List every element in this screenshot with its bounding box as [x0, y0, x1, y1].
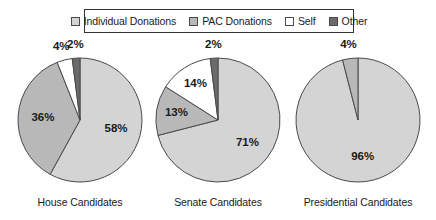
pie-chart-house: 58%36%4%2% House Candidates [14, 44, 146, 220]
pie-caption-senate: Senate Candidates [174, 196, 262, 208]
legend-swatch-icon-pac [189, 17, 198, 26]
pie-chart-senate: 71%13%14%2% Senate Candidates [152, 44, 284, 220]
legend-swatch-icon-other [329, 17, 338, 26]
legend-label-pac: PAC Donations [202, 16, 272, 27]
slice-label-pac-donations: 4% [340, 38, 357, 50]
legend-label-self: Self [298, 16, 316, 27]
pie-chart-presidential: 96%4% Presidential Candidates [292, 44, 424, 220]
chart-legend: Individual Donations PAC Donations Self … [84, 9, 354, 33]
legend-item-other: Other [329, 16, 368, 27]
pie-chart-figure: Individual Donations PAC Donations Self … [0, 0, 436, 220]
pie-caption-presidential: Presidential Candidates [304, 196, 413, 208]
pie-svg-presidential: 96%4% [292, 44, 424, 196]
legend-item-pac-donations: PAC Donations [189, 16, 272, 27]
legend-item-self: Self [285, 16, 316, 27]
slice-label-individual-donations: 96% [351, 150, 374, 162]
pie-svg-house: 58%36%4%2% [14, 44, 146, 196]
pie-svg-senate: 71%13%14%2% [152, 44, 284, 196]
slice-label-pac-donations: 36% [31, 111, 54, 123]
pie-caption-house: House Candidates [38, 196, 123, 208]
slice-label-pac-donations: 13% [165, 106, 188, 118]
legend-label-individual: Individual Donations [84, 16, 177, 27]
legend-label-other: Other [342, 16, 368, 27]
slice-label-individual-donations: 71% [236, 136, 259, 148]
slice-label-other: 2% [205, 38, 222, 50]
legend-item-individual-donations: Individual Donations [71, 16, 177, 27]
legend-swatch-icon-self [285, 17, 294, 26]
slice-label-individual-donations: 58% [104, 122, 127, 134]
slice-label-self: 14% [184, 77, 207, 89]
legend-swatch-icon-individual [71, 17, 80, 26]
slice-label-other: 2% [67, 38, 84, 50]
